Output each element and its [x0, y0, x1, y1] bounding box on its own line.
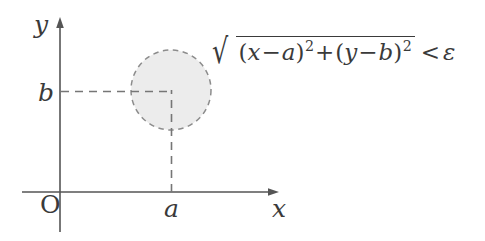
exponent-two-2: 2 [403, 38, 412, 54]
variable-y: y [344, 39, 357, 65]
x-tick-label-a: a [164, 196, 179, 221]
less-than-sign: < [415, 39, 443, 65]
open-paren-2: ( [335, 39, 344, 65]
close-paren-2: ) [393, 39, 402, 65]
square-root-expression: √ (x−a)2+(y−b)2 [210, 36, 415, 69]
variable-x: x [247, 39, 260, 65]
minus-sign-1: − [260, 39, 281, 65]
x-axis-label: x [272, 196, 286, 221]
parameter-b: b [379, 39, 394, 65]
exponent-two-1: 2 [305, 38, 314, 54]
distance-inequality-formula: √ (x−a)2+(y−b)2 <ε [210, 36, 455, 69]
plus-sign: + [314, 39, 335, 65]
parameter-a: a [282, 39, 296, 65]
radicand: (x−a)2+(y−b)2 [236, 36, 414, 64]
y-axis-arrowhead [56, 17, 64, 28]
epsilon-neighborhood-diagram: y x b a O √ (x−a)2+(y−b)2 <ε [0, 0, 485, 241]
y-tick-label-b: b [38, 80, 54, 105]
epsilon-symbol: ε [443, 39, 455, 65]
close-paren-1: ) [295, 39, 304, 65]
origin-label: O [40, 192, 61, 217]
radical-icon: √ [212, 34, 228, 69]
y-axis-label: y [34, 12, 48, 37]
minus-sign-2: − [357, 39, 378, 65]
